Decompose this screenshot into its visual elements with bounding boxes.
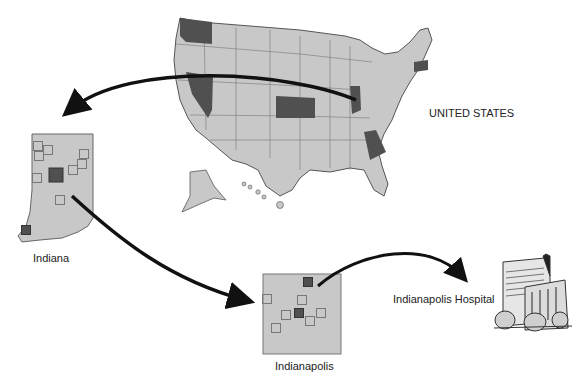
selected-location-marker [304,278,313,287]
diagram-canvas [0,0,586,381]
indianapolis-map [263,274,342,354]
label-united-states: UNITED STATES [429,107,514,119]
state-massachusetts [414,60,428,72]
label-indianapolis: Indianapolis [275,360,334,372]
selected-location-marker [49,168,63,182]
label-indiana: Indiana [33,252,69,264]
hospital-icon [494,254,572,331]
indiana-map [18,134,93,242]
state-kansas [276,96,315,118]
us-map [174,18,432,212]
state-washington [180,18,212,44]
selected-location-marker [22,226,31,235]
alaska [182,170,226,212]
label-indianapolis-hospital: Indianapolis Hospital [393,293,495,305]
arrow-indiana-to-indianapolis [72,196,245,300]
selected-location-marker [295,309,304,318]
